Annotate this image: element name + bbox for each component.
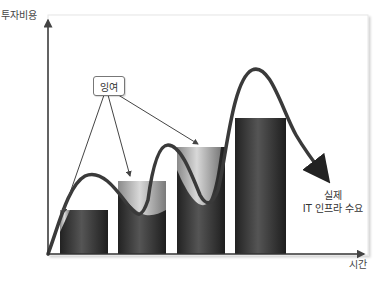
y-axis-label: 투자비용 [1,11,37,21]
demand-label-line1: 실제 [298,189,368,202]
capacity-bar-2 [118,181,166,254]
investment-vs-demand-diagram: 투자비용 시간 잉여 실제 IT 인프라 수요 [0,0,381,283]
diagram-canvas [0,0,381,283]
surplus-label: 잉여 [100,79,118,94]
demand-label-line2: IT 인프라 수요 [298,202,368,215]
capacity-bar-4 [235,118,286,254]
x-axis-label: 시간 [349,260,367,270]
surplus-callout: 잉여 [93,76,125,96]
capacity-bar-1 [60,210,108,254]
actual-demand-label: 실제 IT 인프라 수요 [298,189,368,215]
